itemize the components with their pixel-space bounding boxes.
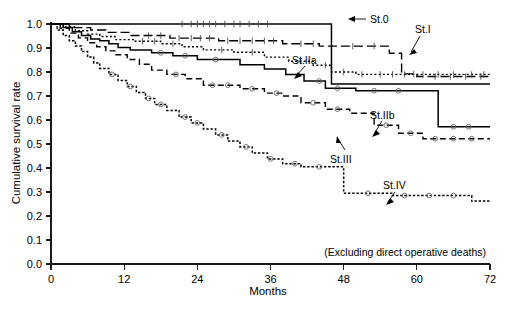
- kaplan-meier-chart: 0.00.10.20.30.40.50.60.70.80.91.0 012243…: [0, 0, 514, 321]
- y-tick-label: 0.3: [27, 186, 42, 198]
- y-tick-label: 0.2: [27, 210, 42, 222]
- x-tick-label: 60: [411, 273, 423, 285]
- chart-background: [0, 0, 514, 321]
- x-tick-label: 24: [191, 273, 203, 285]
- y-tick-label: 0.1: [27, 234, 42, 246]
- curve-label-st0: St.0: [370, 13, 389, 25]
- x-axis-title: Months: [249, 285, 287, 297]
- y-tick-label: 0.5: [27, 138, 42, 150]
- curve-label-st2b: St.IIb: [370, 109, 395, 121]
- y-tick-label: 1.0: [27, 18, 42, 30]
- y-tick-label: 0.8: [27, 66, 42, 78]
- y-tick-label: 0.9: [27, 42, 42, 54]
- curve-label-st2a: St.IIa: [292, 54, 317, 66]
- curve-label-st1: St.I: [415, 23, 431, 35]
- y-axis-title: Cumulative survival rate: [10, 82, 22, 205]
- x-tick-label: 0: [48, 273, 54, 285]
- x-tick-label: 48: [338, 273, 350, 285]
- y-tick-label: 0.7: [27, 90, 42, 102]
- y-tick-label: 0.6: [27, 114, 42, 126]
- y-tick-label: 0.0: [27, 258, 42, 270]
- curve-label-st4: St.IV: [383, 179, 406, 191]
- survival-chart-figure: 0.00.10.20.30.40.50.60.70.80.91.0 012243…: [0, 0, 514, 321]
- curve-label-st3: St.III: [330, 153, 352, 165]
- x-tick-label: 12: [118, 273, 130, 285]
- y-tick-label: 0.4: [27, 162, 42, 174]
- x-tick-label: 72: [484, 273, 496, 285]
- figure-note: (Excluding direct operative deaths): [324, 246, 486, 258]
- x-tick-label: 36: [264, 273, 276, 285]
